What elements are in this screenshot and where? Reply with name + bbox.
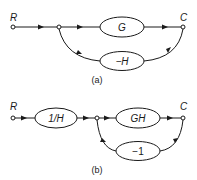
arrow-icon [21,116,27,121]
gain-label-gh: GH [131,113,147,124]
arrow-icon [162,25,168,30]
gain-label-g: G [118,22,126,33]
signal-flow-diagrams: R C G −H (a) R C 1/H GH [0,0,197,180]
arrow-icon [104,116,110,121]
node-c [181,116,185,120]
node-r [11,116,15,120]
input-label-r: R [10,12,17,23]
caption-b: (b) [92,165,103,175]
output-label-c: C [180,101,188,112]
branch-minus-1-to-junction [97,120,116,151]
arrow-icon [83,116,89,121]
diagram-a: R C G −H (a) [10,12,188,85]
diagram-b: R C 1/H GH −1 (b) [10,101,188,175]
arrow-icon [100,138,106,142]
node-junction [57,25,61,29]
arrow-icon [167,116,173,121]
gain-label-minus-h: −H [115,56,129,67]
node-c [181,25,185,29]
arrow-icon [77,25,83,30]
branch-h-to-junction [59,29,100,61]
arrow-icon [76,50,82,54]
gain-label-1-over-h: 1/H [48,113,64,124]
node-junction [95,116,99,120]
input-label-r: R [10,101,17,112]
caption-a: (a) [92,75,103,85]
arrow-icon [38,25,44,30]
node-r [11,25,15,29]
output-label-c: C [180,12,188,23]
gain-label-minus-1: −1 [132,146,144,157]
branch-c-to-minus-1 [160,120,183,151]
branch-c-to-h [144,29,183,61]
